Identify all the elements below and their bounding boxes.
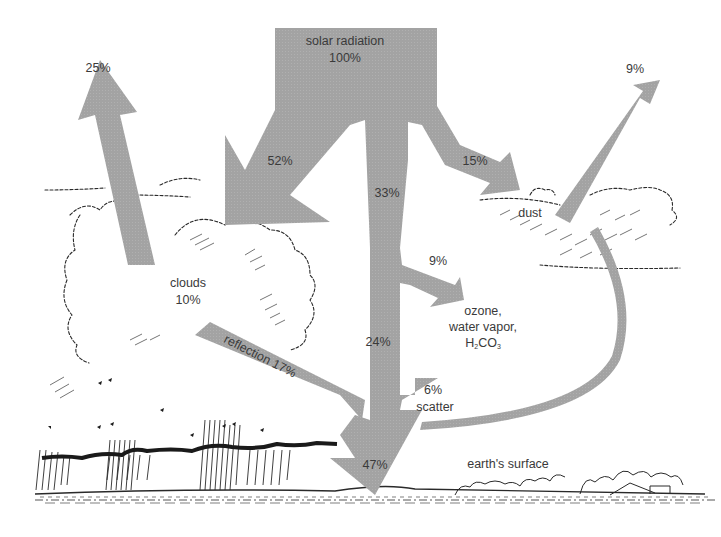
scatter-label: scatter (416, 399, 454, 415)
carbonic-acid-label: H2CO3 (465, 335, 501, 355)
solar-radiation-label: solar radiation (306, 33, 385, 49)
clouds-to-space-value: 25% (85, 60, 110, 76)
water-vapor-label: water vapor, (449, 319, 517, 335)
direct-beam-value: 33% (374, 185, 399, 201)
clouds-label: clouds (170, 275, 206, 291)
surface-total-value: 47% (362, 457, 387, 473)
to-dust-value: 15% (462, 153, 487, 169)
to-ozone-value: 9% (429, 253, 447, 269)
dust-label: dust (518, 205, 542, 221)
clouds-to-space-arrow (78, 60, 155, 265)
dust-to-space-arrow (555, 80, 660, 223)
solar-radiation-diagram: solar radiation 100% 25% 9% 52% 33% 15% … (0, 0, 721, 537)
solar-radiation-arrow (225, 28, 520, 495)
solar-radiation-value: 100% (329, 50, 361, 66)
clouds-value: 10% (175, 292, 200, 308)
clouds-reflect-value: 52% (267, 153, 292, 169)
earth-surface-label: earth's surface (467, 456, 549, 472)
ozone-label: ozone, (464, 303, 502, 319)
direct-surface-value: 24% (365, 334, 390, 350)
dust-to-space-value: 9% (626, 61, 644, 77)
flow-arrows (0, 0, 721, 537)
scatter-value: 6% (424, 382, 442, 398)
